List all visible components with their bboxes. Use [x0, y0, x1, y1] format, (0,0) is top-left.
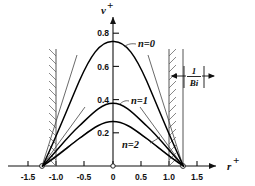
- curve-label-n2: n=2: [122, 139, 140, 150]
- curve-label-n0-group: n=0: [124, 38, 156, 49]
- origin-marker: [111, 164, 115, 168]
- x-tick-label-3: 0: [111, 172, 116, 182]
- x-axis-label-text: r: [227, 160, 232, 172]
- axis-group: [8, 17, 216, 169]
- curve-leader-n1: [120, 101, 129, 104]
- figure-canvas: -1.5 -1.0 -0.5 0 0.5 1.0 1.5 0.2 0.4 0.6…: [0, 0, 255, 186]
- bi-arrow-right: [209, 73, 216, 79]
- curve-label-n0: n=0: [138, 38, 156, 49]
- y-tick-group: [113, 33, 119, 133]
- x-tick-label-6: 1.5: [191, 172, 203, 182]
- curve-leader-n2: [150, 137, 160, 143]
- x-tick-label-5: 1.0: [163, 172, 175, 182]
- y-axis-label-sup: +: [107, 0, 113, 11]
- y-tick-label-2: 0.6: [97, 62, 109, 72]
- bi-numerator: 1: [192, 66, 197, 76]
- x-axis-label-sup: +: [233, 154, 239, 166]
- x-tick-label-0: -1.5: [21, 172, 36, 182]
- curve-label-n1-group: n=1: [120, 95, 148, 106]
- x-tick-label-4: 0.5: [135, 172, 147, 182]
- y-tick-label-0: 0.2: [97, 128, 109, 138]
- x-tick-label-2: -0.5: [77, 172, 92, 182]
- tangent-n0-left: [42, 55, 77, 166]
- bi-denominator: Bi: [189, 78, 199, 88]
- x-tick-label-group: -1.5 -1.0 -0.5 0 0.5 1.0 1.5: [21, 172, 204, 182]
- x-axis-label: r +: [227, 154, 239, 172]
- x-axis-arrow: [209, 163, 216, 169]
- y-axis-label: v +: [101, 0, 113, 16]
- bi-dimension-annotation: 1 Bi: [171, 64, 216, 88]
- x-tick-label-1: -1.0: [49, 172, 64, 182]
- tangent-n0-right: [148, 55, 183, 166]
- y-axis-label-text: v: [101, 4, 106, 16]
- tangent-n1-left: [42, 107, 85, 166]
- y-tick-label-3: 0.8: [97, 28, 109, 38]
- y-axis-arrow: [110, 17, 116, 24]
- curve-label-n1: n=1: [131, 95, 148, 106]
